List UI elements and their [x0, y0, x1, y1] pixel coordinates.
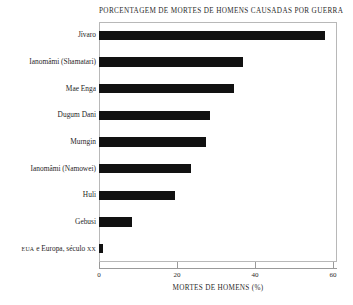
- bar: [99, 217, 132, 227]
- bar-row: [99, 102, 337, 129]
- chart-figure: Porcentagem de mortes de homens causadas…: [0, 0, 353, 305]
- x-axis-line: [99, 268, 337, 269]
- bar: [99, 244, 103, 254]
- bar-row: [99, 49, 337, 76]
- plot-area: [99, 22, 337, 262]
- x-tick: [255, 262, 256, 268]
- category-label: Ianomâmi (Shamatari): [3, 57, 99, 66]
- category-label: EUA e Europa, século XX: [3, 244, 99, 253]
- category-label: Huli: [3, 190, 99, 199]
- category-label: Jívaro: [3, 30, 99, 39]
- bar: [99, 164, 191, 174]
- category-label: Mae Enga: [3, 84, 99, 93]
- bar: [99, 84, 234, 94]
- bar: [99, 31, 325, 41]
- bar: [99, 137, 206, 147]
- bar-row: [99, 155, 337, 182]
- bar-row: [99, 182, 337, 209]
- bar-row: [99, 22, 337, 49]
- category-label: Gebusi: [3, 217, 99, 226]
- category-label: Murngin: [3, 137, 99, 146]
- x-tick-label: 0: [97, 271, 101, 279]
- bar-row: [99, 209, 337, 236]
- x-tick-label: 60: [330, 271, 337, 279]
- bar: [99, 57, 243, 67]
- chart-title: Porcentagem de mortes de homens causadas…: [99, 7, 337, 15]
- x-tick-label: 20: [174, 271, 181, 279]
- bar-row: [99, 235, 337, 262]
- category-label: Dugum Dani: [3, 110, 99, 119]
- x-tick: [333, 262, 334, 268]
- bar-row: [99, 129, 337, 156]
- bar: [99, 111, 210, 121]
- category-label: Ianomâmi (Namowei): [3, 164, 99, 173]
- x-tick: [99, 262, 100, 268]
- bar: [99, 191, 175, 201]
- x-tick-label: 40: [252, 271, 259, 279]
- x-tick: [177, 262, 178, 268]
- bar-row: [99, 75, 337, 102]
- category-axis-labels: JívaroIanomâmi (Shamatari)Mae EngaDugum …: [0, 22, 99, 262]
- x-axis-title: Mortes de homens (%): [99, 284, 337, 292]
